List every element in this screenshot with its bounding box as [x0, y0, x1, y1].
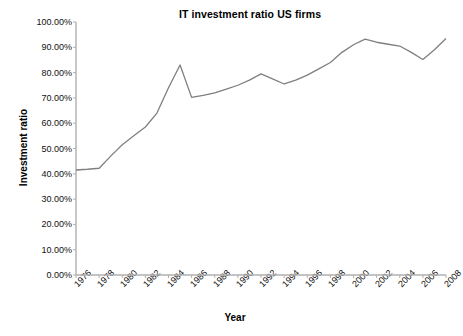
data-series-line — [76, 38, 446, 170]
x-axis-title: Year — [180, 312, 290, 323]
